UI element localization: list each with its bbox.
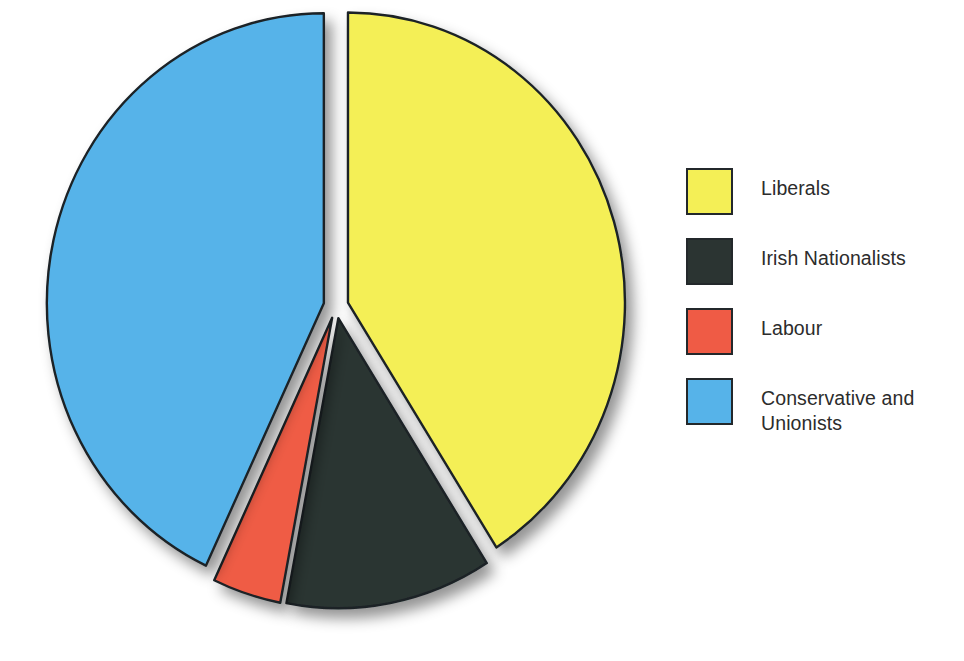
legend-swatch-conservative-and-unionists [686, 378, 733, 425]
legend-item-irish-nationalists[interactable]: Irish Nationalists [686, 238, 956, 290]
legend-item-conservative-and-unionists[interactable]: Conservative and Unionists [686, 378, 956, 436]
legend-label-conservative-and-unionists: Conservative and Unionists [761, 378, 914, 436]
legend-item-liberals[interactable]: Liberals [686, 168, 956, 220]
legend-label-labour: Labour [761, 308, 822, 341]
legend-label-irish-nationalists: Irish Nationalists [761, 238, 906, 271]
legend-label-liberals: Liberals [761, 168, 830, 201]
pie-slices-group [47, 13, 625, 609]
legend-swatch-labour [686, 308, 733, 355]
chart-legend: Liberals Irish Nationalists Labour Conse… [686, 168, 956, 454]
pie-chart-figure: Liberals Irish Nationalists Labour Conse… [0, 0, 964, 661]
legend-swatch-irish-nationalists [686, 238, 733, 285]
legend-swatch-liberals [686, 168, 733, 215]
legend-item-labour[interactable]: Labour [686, 308, 956, 360]
